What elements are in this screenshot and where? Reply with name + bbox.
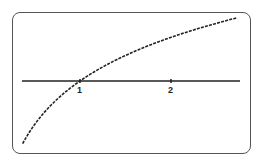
tick-label-1: 1 [77, 85, 82, 95]
tick-label-2: 2 [168, 85, 173, 95]
plot-area [0, 0, 258, 163]
